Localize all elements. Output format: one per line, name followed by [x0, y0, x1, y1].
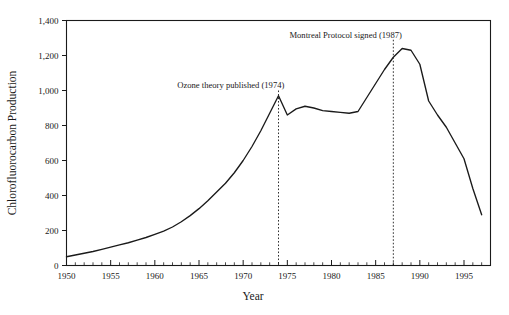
y-tick-label: 800 — [45, 121, 59, 131]
x-axis-title: Year — [242, 290, 263, 302]
y-tick-label: 1,000 — [38, 86, 59, 96]
chart-background — [0, 0, 509, 315]
chart-figure: 02004006008001,0001,2001,400 19501955196… — [0, 0, 509, 315]
y-axis-title: Chlorofluorocarbon Production — [6, 70, 18, 215]
y-tick-label: 400 — [45, 191, 59, 201]
y-tick-label: 1,400 — [38, 16, 59, 26]
x-tick-label: 1950 — [58, 271, 77, 281]
x-tick-label: 1970 — [234, 271, 253, 281]
x-tick-label: 1980 — [323, 271, 342, 281]
x-tick-label: 1995 — [455, 271, 474, 281]
x-tick-label: 1960 — [146, 271, 165, 281]
y-tick-label: 600 — [45, 156, 59, 166]
x-tick-label: 1990 — [411, 271, 430, 281]
x-tick-label: 1985 — [367, 271, 386, 281]
annotation-label-montreal-protocol: Montreal Protocol signed (1987) — [289, 30, 402, 40]
annotation-label-ozone-theory: Ozone theory published (1974) — [177, 80, 284, 90]
y-tick-label: 0 — [54, 261, 59, 271]
x-tick-label: 1965 — [190, 271, 209, 281]
y-tick-label: 1,200 — [38, 51, 59, 61]
chlorofluorocarbon-production-line-chart: 02004006008001,0001,2001,400 19501955196… — [0, 0, 509, 315]
x-tick-label: 1975 — [278, 271, 297, 281]
y-tick-label: 200 — [45, 226, 59, 236]
x-tick-label: 1955 — [102, 271, 121, 281]
